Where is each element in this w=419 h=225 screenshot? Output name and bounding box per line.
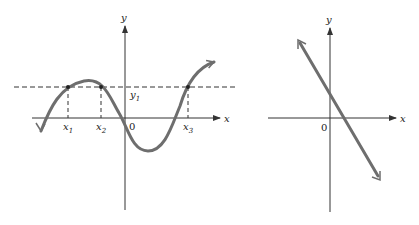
point-x2 [99,85,103,89]
right-graph: y x 0 [268,14,406,212]
point-x3 [186,85,190,89]
right-origin-label: 0 [321,122,327,133]
cubic-curve [41,62,214,151]
left-graph: y x 0 y1 x1 x2 x3 [14,12,236,210]
right-y-label: y [325,14,332,25]
point-x1 [66,85,70,89]
x3-label: x3 [183,121,194,135]
x2-label: x2 [96,121,107,135]
decreasing-line [300,43,378,176]
left-origin-label: 0 [129,121,135,132]
y1-label: y1 [129,89,140,103]
x1-label: x1 [63,121,73,135]
right-x-label: x [400,113,406,124]
left-x-label: x [224,113,230,124]
left-y-label: y [120,12,127,23]
figure: y x 0 y1 x1 x2 x3 y x 0 [0,0,419,225]
